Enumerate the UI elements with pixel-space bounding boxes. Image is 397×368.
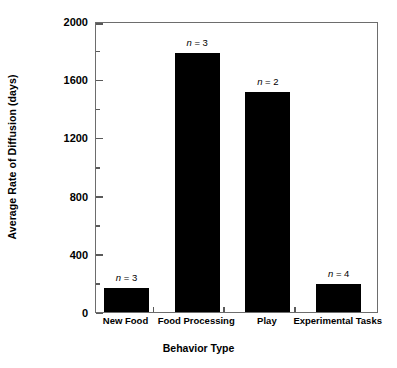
x-tick-label-play: Play <box>257 316 277 326</box>
x-tick <box>223 307 225 312</box>
x-tick-label-food-processing: Food Processing <box>158 316 235 326</box>
y-axis-title-text: Average Rate of Diffusion (days) <box>5 74 17 239</box>
x-axis-title: Behavior Type <box>0 342 397 354</box>
bar-chart-figure: Average Rate of Diffusion (days) 0 400 8… <box>0 0 397 368</box>
y-tick-minor <box>96 225 100 227</box>
y-tick-minor <box>96 167 100 169</box>
x-axis-tick-labels: New Food Food Processing Play Experiment… <box>95 316 378 336</box>
bar-food-processing <box>175 53 220 312</box>
y-tick-major <box>96 196 103 198</box>
bar-new-food <box>104 288 149 312</box>
annotation-value: = 4 <box>333 268 349 279</box>
y-tick-minor <box>96 51 100 53</box>
y-tick-major <box>96 23 103 25</box>
bar-play <box>245 92 290 312</box>
bar-annotation-new-food: n = 3 <box>104 273 149 283</box>
y-tick-label: 2000 <box>30 17 88 28</box>
y-tick-label: 1600 <box>30 75 88 86</box>
y-tick-major <box>96 138 103 140</box>
y-tick-minor <box>96 109 100 111</box>
bar-annotation-experimental-tasks: n = 4 <box>316 269 361 279</box>
annotation-value: = 3 <box>192 37 208 48</box>
plot-inner: n = 3 n = 3 n = 2 n = 4 <box>96 23 377 312</box>
y-tick-major <box>96 313 103 315</box>
y-tick-major <box>96 254 103 256</box>
y-axis-title: Average Rate of Diffusion (days) <box>0 0 22 313</box>
y-tick-label: 400 <box>30 249 88 260</box>
bar-annotation-play: n = 2 <box>245 77 290 87</box>
annotation-value: = 3 <box>121 272 137 283</box>
x-tick-label-new-food: New Food <box>103 316 148 326</box>
bar-experimental-tasks <box>316 284 361 312</box>
x-tick <box>294 307 296 312</box>
y-tick-label: 800 <box>30 191 88 202</box>
bar-annotation-food-processing: n = 3 <box>175 38 220 48</box>
annotation-value: = 2 <box>262 76 278 87</box>
y-axis-tick-labels: 0 400 800 1200 1600 2000 <box>22 0 88 368</box>
x-tick-label-experimental-tasks: Experimental Tasks <box>293 316 382 326</box>
y-tick-label: 1200 <box>30 133 88 144</box>
x-tick <box>153 307 155 312</box>
y-tick-label: 0 <box>30 308 88 319</box>
plot-area: n = 3 n = 3 n = 2 n = 4 <box>95 22 378 313</box>
y-tick-major <box>96 80 103 82</box>
y-tick-minor <box>96 283 100 285</box>
